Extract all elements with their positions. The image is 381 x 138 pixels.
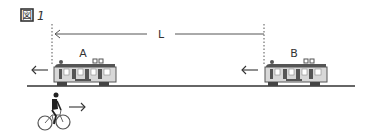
train-a: A [54,47,116,86]
train-a-direction-arrow [32,66,48,74]
figure-label: 図 1 [21,9,45,23]
train-b: B [265,47,327,86]
train-a-label: A [79,47,87,60]
train-b-direction-arrow [242,66,258,74]
figure-label-kanji: 図 [22,10,32,21]
train-b-label: B [290,47,298,60]
diagram-canvas: 図 1 L A B [0,0,381,138]
distance-arrow: L [55,28,264,41]
figure-label-number: 1 [37,9,45,23]
distance-label: L [158,28,165,41]
cyclist-icon [38,93,70,131]
cyclist-direction-arrow [69,103,85,111]
